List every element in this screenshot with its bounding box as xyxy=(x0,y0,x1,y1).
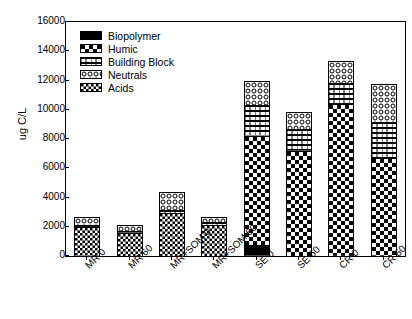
legend-swatch-neutrals xyxy=(80,70,102,79)
legend-label: Neutrals xyxy=(108,70,147,81)
x-axis: MR 0MR 60MR+SOM 0MR+SOM 60SE 0SE 60CR 0C… xyxy=(65,256,404,316)
legend-swatch-biopolymer xyxy=(80,31,102,40)
y-tick-label: 4000 xyxy=(0,192,70,202)
bar-cr-60 xyxy=(371,84,397,256)
legend-swatch-building-block xyxy=(80,57,102,66)
y-tick-label: 6000 xyxy=(0,162,70,172)
bar-segment-building-block xyxy=(328,83,354,105)
bar-segment-humic xyxy=(328,104,354,257)
y-tick-label: 14000 xyxy=(0,45,70,55)
y-tick-label: 2000 xyxy=(0,221,70,231)
bar-cr-0 xyxy=(328,61,354,256)
bar-se-60 xyxy=(286,112,312,256)
bar-segment-humic xyxy=(286,151,312,257)
y-axis-title: ug C/L xyxy=(16,84,28,164)
legend-item-neutrals: Neutrals xyxy=(80,69,174,81)
bar-segment-building-block xyxy=(244,105,270,136)
legend-swatch-humic xyxy=(80,44,102,53)
chart-legend: BiopolymerHumicBuilding BlockNeutralsAci… xyxy=(80,30,174,95)
legend-item-acids: Acids xyxy=(80,82,174,94)
legend-item-humic: Humic xyxy=(80,43,174,55)
y-tick-label: 16000 xyxy=(0,16,70,26)
bar-segment-neutrals xyxy=(286,112,312,130)
y-tick-label: 0 xyxy=(0,250,70,260)
y-tick-label: 10000 xyxy=(0,104,70,114)
stacked-bar-chart: ug C/L 020004000600080001000012000140001… xyxy=(0,0,412,319)
legend-swatch-acids xyxy=(80,83,102,92)
legend-label: Humic xyxy=(108,44,138,55)
legend-label: Acids xyxy=(108,83,134,94)
legend-label: Biopolymer xyxy=(108,31,161,42)
y-tick-label: 8000 xyxy=(0,133,70,143)
y-tick-label: 12000 xyxy=(0,75,70,85)
bar-segment-neutrals xyxy=(371,84,397,123)
legend-item-building-block: Building Block xyxy=(80,56,174,68)
bar-segment-neutrals xyxy=(328,61,354,84)
bar-segment-neutrals xyxy=(244,81,270,107)
bar-mr-som-0 xyxy=(159,192,185,256)
legend-item-biopolymer: Biopolymer xyxy=(80,30,174,42)
bar-segment-building-block xyxy=(286,129,312,152)
bar-segment-humic xyxy=(371,158,397,257)
bar-segment-neutrals xyxy=(159,192,185,211)
legend-label: Building Block xyxy=(108,57,174,68)
bar-segment-building-block xyxy=(371,122,397,159)
